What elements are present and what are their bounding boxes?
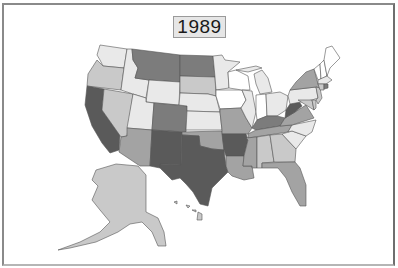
state-WY bbox=[146, 80, 180, 105]
state-AR bbox=[222, 134, 248, 156]
state-IN bbox=[256, 94, 267, 120]
year-title: 1989 bbox=[173, 16, 226, 38]
state-AK bbox=[58, 164, 166, 250]
state-RI bbox=[324, 84, 328, 89]
state-MT bbox=[132, 49, 180, 82]
state-ND bbox=[180, 55, 215, 77]
state-OH bbox=[266, 92, 288, 116]
us-choropleth-map bbox=[0, 0, 398, 268]
state-IA bbox=[216, 90, 246, 109]
state-HI bbox=[174, 201, 202, 220]
state-KS bbox=[186, 111, 222, 130]
state-CO bbox=[152, 103, 187, 132]
state-ME bbox=[324, 46, 340, 76]
state-NM bbox=[150, 130, 182, 168]
state-WI bbox=[228, 70, 250, 90]
state-FL bbox=[262, 162, 306, 206]
